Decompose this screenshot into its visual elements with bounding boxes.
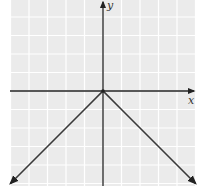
x-axis-label: x [188, 94, 195, 107]
graph-plot: x y [0, 0, 200, 189]
y-axis-label: y [106, 0, 114, 12]
origin-point [101, 89, 105, 93]
